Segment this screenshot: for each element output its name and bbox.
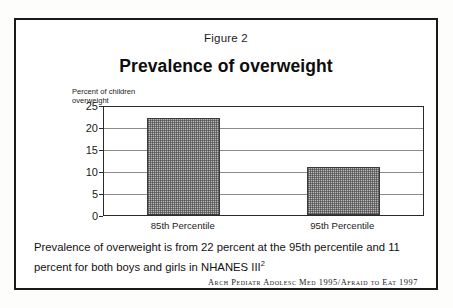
y-axis-tick-mark bbox=[99, 216, 103, 217]
bar-95th-percentile bbox=[307, 167, 380, 215]
caption-text: Prevalence of overweight is from 22 perc… bbox=[34, 241, 400, 272]
x-axis-label-1: 95th Percentile bbox=[310, 220, 374, 231]
figure-frame: Figure 2 Prevalence of overweight Percen… bbox=[14, 18, 438, 290]
y-axis-tick-mark bbox=[99, 150, 103, 151]
figure-number-label: Figure 2 bbox=[16, 32, 436, 44]
y-axis-tick-25: 25 bbox=[86, 100, 98, 112]
y-axis-tick-mark bbox=[99, 172, 103, 173]
plot-wrapper: 0510152025 bbox=[76, 106, 424, 216]
source-citation: Arch Pediatr Adolesc Med 1995/Afraid to … bbox=[208, 278, 418, 287]
y-axis-tick-labels: 0510152025 bbox=[76, 106, 102, 216]
y-axis-tick-mark bbox=[99, 128, 103, 129]
y-axis-tick-15: 15 bbox=[86, 144, 98, 156]
y-axis-tick-5: 5 bbox=[92, 188, 98, 200]
figure-caption: Prevalence of overweight is from 22 perc… bbox=[34, 240, 426, 275]
y-axis-tick-0: 0 bbox=[92, 210, 98, 222]
x-axis-tick-labels: 85th Percentile95th Percentile bbox=[103, 220, 424, 234]
x-axis-label-0: 85th Percentile bbox=[151, 220, 215, 231]
y-axis-tick-mark bbox=[99, 194, 103, 195]
bar-85th-percentile bbox=[147, 118, 220, 215]
y-axis-tick-20: 20 bbox=[86, 122, 98, 134]
caption-superscript: 2 bbox=[261, 259, 265, 268]
chart-title: Prevalence of overweight bbox=[16, 56, 436, 77]
plot-area bbox=[103, 106, 424, 216]
y-axis-tick-10: 10 bbox=[86, 166, 98, 178]
y-axis-title: Percent of children overweight bbox=[72, 88, 135, 105]
scanned-page: Figure 2 Prevalence of overweight Percen… bbox=[0, 0, 453, 308]
y-axis-tick-mark bbox=[99, 106, 103, 107]
